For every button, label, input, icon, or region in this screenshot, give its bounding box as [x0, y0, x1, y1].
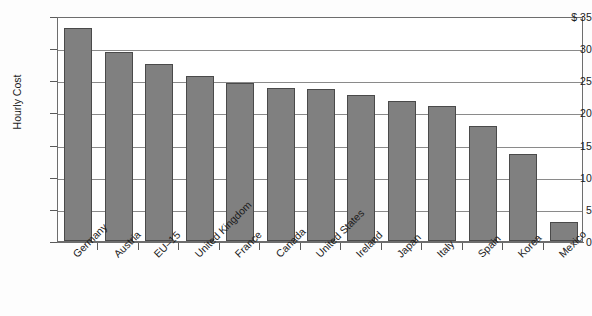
- bar-chart-hourly-cost: 051015202530$ 35 Hourly Cost GermanyAust…: [0, 0, 592, 316]
- x-axis-tick: [97, 243, 98, 250]
- y-axis-tick: [50, 17, 57, 18]
- y-axis-tick: [50, 113, 57, 114]
- bar-slot: [422, 18, 462, 241]
- bar: [145, 64, 173, 241]
- y-axis-tick: [50, 81, 57, 82]
- bar-slot: [98, 18, 138, 241]
- x-axis-tick: [178, 243, 179, 250]
- y-axis-title: Hourly Cost: [11, 57, 23, 147]
- y-axis-tick: [50, 210, 57, 211]
- y-axis-tick-label: 5: [546, 205, 592, 216]
- x-axis-tick: [381, 243, 382, 250]
- y-axis-tick: [50, 49, 57, 50]
- bar-slot: [179, 18, 219, 241]
- bar: [428, 106, 456, 241]
- x-axis-tick: [259, 243, 260, 250]
- x-axis-tick: [340, 243, 341, 250]
- bar: [64, 28, 92, 241]
- bar-slot: [301, 18, 341, 241]
- plot-area: [57, 17, 583, 242]
- y-axis-tick-label: 15: [546, 141, 592, 152]
- y-axis-tick-label: 30: [546, 44, 592, 55]
- x-axis-tick: [219, 243, 220, 250]
- bar-slot: [341, 18, 381, 241]
- y-axis-tick: [50, 242, 57, 243]
- x-axis-tick: [300, 243, 301, 250]
- x-axis-tick: [138, 243, 139, 250]
- x-axis-tick: [462, 243, 463, 250]
- bar: [105, 52, 133, 241]
- x-axis-tick: [421, 243, 422, 250]
- y-axis-tick-label: 10: [546, 173, 592, 184]
- bar-slot: [382, 18, 422, 241]
- bar: [186, 76, 214, 241]
- x-axis-tick: [502, 243, 503, 250]
- bars-layer: [58, 18, 582, 241]
- bar: [509, 154, 537, 241]
- y-axis-tick: [50, 146, 57, 147]
- bar-slot: [463, 18, 503, 241]
- y-axis-tick-label: 20: [546, 108, 592, 119]
- bar: [388, 101, 416, 241]
- y-axis-tick-label: 25: [546, 76, 592, 87]
- y-axis-tick-label: $ 35: [546, 12, 592, 23]
- y-axis-line: [57, 17, 58, 243]
- bar: [307, 89, 335, 241]
- bar-slot: [503, 18, 543, 241]
- bar: [267, 88, 295, 241]
- x-axis-tick: [543, 243, 544, 250]
- bar-slot: [58, 18, 98, 241]
- bar: [469, 126, 497, 241]
- y-axis-tick: [50, 178, 57, 179]
- bar-slot: [139, 18, 179, 241]
- bar-slot: [260, 18, 300, 241]
